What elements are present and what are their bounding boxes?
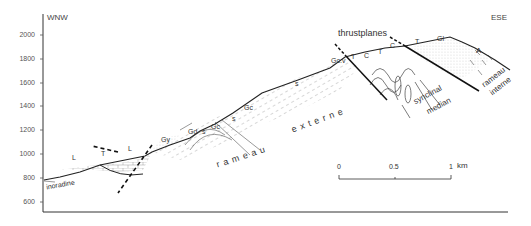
unit-label-Gc: Gc xyxy=(211,123,220,130)
y-tick-label: 800 xyxy=(5,174,35,181)
thrust-plane-1 xyxy=(345,55,387,100)
unit-label-T: T xyxy=(351,53,355,60)
direction-wnw: WNW xyxy=(47,13,68,22)
scale-bar xyxy=(339,175,451,179)
unit-label-s: s xyxy=(295,80,299,87)
unit-label-Gd: Gd xyxy=(188,128,197,135)
y-tick-label: 2000 xyxy=(5,31,35,38)
rameau-externe-fill xyxy=(152,58,360,160)
unit-label-T: T xyxy=(378,48,382,55)
direction-ese: ESE xyxy=(491,13,507,22)
thrustplanes-label: thrustplanes xyxy=(338,28,387,38)
unit-label-T: T xyxy=(101,150,105,157)
scale-label-1: 1 xyxy=(449,163,453,170)
unit-label-L: L xyxy=(128,145,132,152)
unit-label-s: s xyxy=(232,115,236,122)
unit-label-Gl: Gl xyxy=(437,35,444,42)
scale-unit-km: km xyxy=(457,161,468,170)
unit-label-A: A xyxy=(476,46,481,55)
gl-dotted-fill xyxy=(408,38,490,80)
y-tick-label: 1000 xyxy=(5,150,35,157)
y-tick-label: 1600 xyxy=(5,79,35,86)
unit-label-Gy: Gy xyxy=(161,136,170,143)
geological-cross-section: WNW ESE 2000 1800 1600 1400 1200 1000 80… xyxy=(0,0,531,226)
unit-label-C: C xyxy=(364,52,369,59)
unit-label-s: s xyxy=(202,128,206,135)
scale-label-05: 0.5 xyxy=(389,163,399,170)
scale-label-0: 0 xyxy=(337,163,341,170)
y-tick-label: 600 xyxy=(5,198,35,205)
cross-section-drawing xyxy=(0,0,531,226)
y-tick-label: 1800 xyxy=(5,55,35,62)
unit-label-Gc: Gc xyxy=(244,104,253,111)
y-tick-label: 1200 xyxy=(5,126,35,133)
unit-label-T: T xyxy=(415,38,419,45)
unit-label-Gcv: Gc.v xyxy=(331,57,345,64)
y-tick-label: 1400 xyxy=(5,102,35,109)
unit-label-C: C xyxy=(390,42,395,49)
unit-label-L: L xyxy=(72,154,76,161)
